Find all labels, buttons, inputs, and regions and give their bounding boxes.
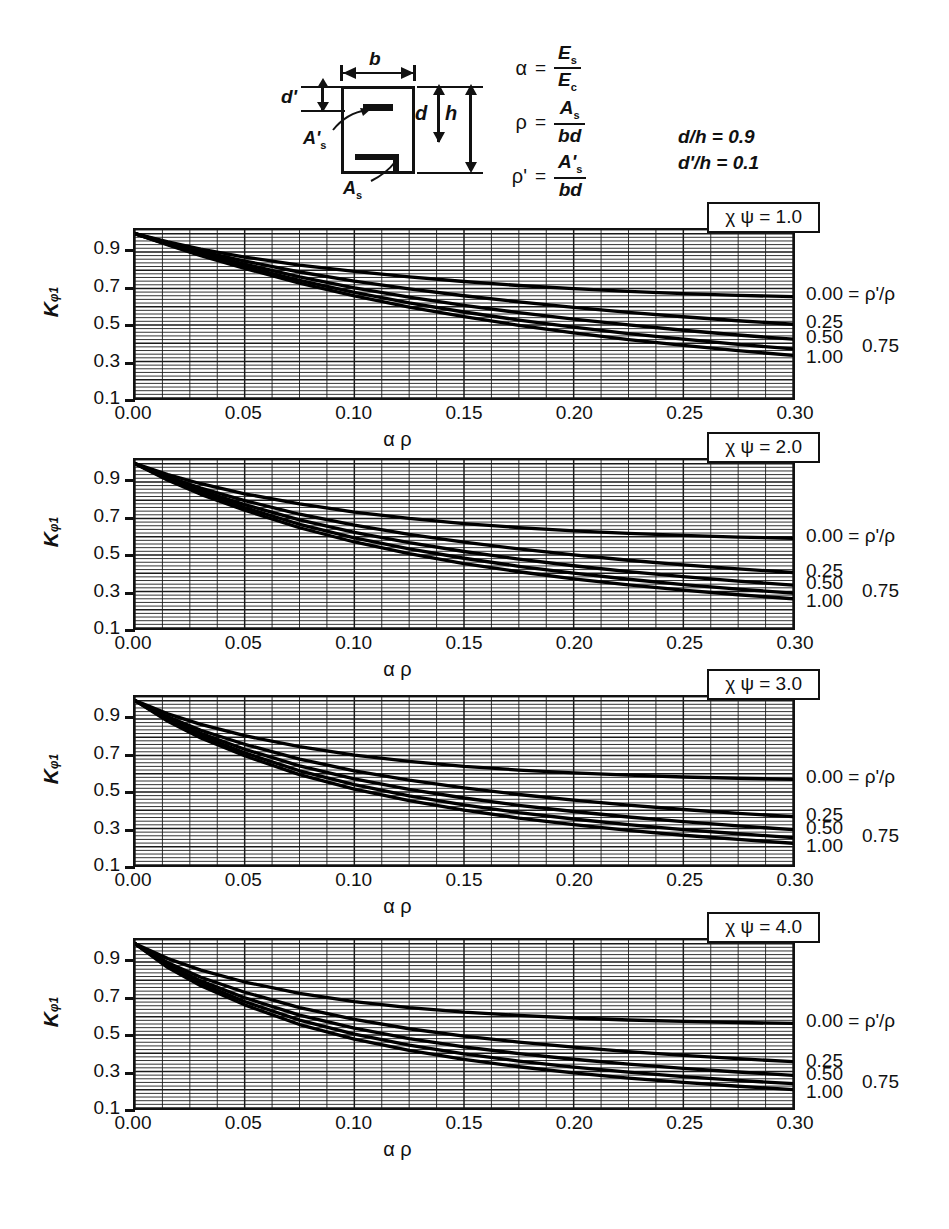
y-axis-label: Kφ1 (39, 517, 63, 547)
curve-label-0.00 = ρ'/ρ: 0.00 = ρ'/ρ (806, 1010, 895, 1032)
y-tick-0.3: 0.3 (74, 1060, 120, 1082)
curve-label-0.75: 0.75 (862, 825, 899, 847)
x-tick-0.30: 0.30 (777, 632, 814, 654)
curve-label-0.75: 0.75 (862, 1071, 899, 1093)
h-dimension-vertical (469, 90, 472, 170)
chart-title-badge: χ ψ = 1.0 (707, 202, 820, 233)
chart-title-badge: χ ψ = 3.0 (707, 669, 820, 700)
x-axis-label: α ρ (0, 658, 795, 681)
x-axis-label: α ρ (0, 428, 795, 451)
y-tick-0.3: 0.3 (74, 350, 120, 372)
grid-lines (135, 460, 793, 628)
dprime-arrow-down-icon (317, 102, 329, 112)
y-tick-0.5: 0.5 (74, 312, 120, 334)
y-tick-0.7: 0.7 (74, 505, 120, 527)
x-axis-label-rho: ρ (400, 895, 411, 918)
x-tick-0.25: 0.25 (666, 1112, 703, 1134)
formula-rho-prime-denominator: bd (554, 177, 586, 200)
x-tick-0.20: 0.20 (556, 869, 593, 891)
h-arrow-down-icon (465, 162, 477, 173)
header-definitions: b d' A's As d h (0, 28, 949, 208)
formula-alpha-denominator: Ec (554, 67, 581, 93)
formula-rho-prime-fraction: A's bd (554, 152, 586, 199)
h-arrow-up-icon (465, 84, 477, 95)
plot-area (133, 458, 795, 630)
b-arrow-right-icon (401, 67, 414, 79)
x-axis-label-alpha: α (383, 1138, 395, 1161)
curve-label-0.50: 0.50 (806, 326, 843, 348)
y-tick-0.9: 0.9 (74, 467, 120, 489)
y-axis-label: Kφ1 (39, 754, 63, 784)
formula-alpha-fraction: Es Ec (554, 43, 581, 94)
x-tick-0.05: 0.05 (225, 1112, 262, 1134)
ratio-dprime-over-h: d'/h = 0.1 (678, 150, 759, 176)
y-tick-0.5: 0.5 (74, 779, 120, 801)
x-tick-0.25: 0.25 (666, 632, 703, 654)
y-tick-0.9: 0.9 (74, 237, 120, 259)
x-tick-0.00: 0.00 (115, 632, 152, 654)
formula-rho-denominator: bd (554, 123, 585, 146)
x-tick-0.25: 0.25 (666, 402, 703, 424)
d-arrow-up-icon (433, 84, 445, 95)
cross-section-diagram: b d' A's As d h (285, 50, 515, 190)
y-tick-0.5: 0.5 (74, 542, 120, 564)
as-prime-leader-line (331, 106, 373, 132)
x-tick-0.05: 0.05 (225, 402, 262, 424)
formula-rho-equals: = (535, 111, 546, 133)
x-axis-label-rho: ρ (400, 658, 411, 681)
x-tick-0.15: 0.15 (446, 1112, 483, 1134)
dprime-arrow-up-icon (317, 78, 329, 88)
x-tick-0.20: 0.20 (556, 1112, 593, 1134)
x-axis-label: α ρ (0, 1138, 795, 1161)
x-axis-label: α ρ (0, 895, 795, 918)
x-tick-0.00: 0.00 (115, 869, 152, 891)
x-tick-0.10: 0.10 (335, 632, 372, 654)
x-tick-0.10: 0.10 (335, 1112, 372, 1134)
y-tick-0.7: 0.7 (74, 985, 120, 1007)
x-tick-labels: 0.000.050.100.150.200.250.30 (133, 869, 795, 895)
x-tick-labels: 0.000.050.100.150.200.250.30 (133, 632, 795, 658)
x-tick-0.20: 0.20 (556, 402, 593, 424)
plot-area (133, 228, 795, 400)
x-tick-0.10: 0.10 (335, 869, 372, 891)
formula-rho-numerator: As (554, 98, 585, 122)
x-axis-label-rho: ρ (400, 428, 411, 451)
label-h: h (445, 102, 457, 125)
label-d: d (415, 102, 427, 125)
y-tick-labels: 0.90.70.50.30.1 (74, 695, 120, 867)
y-tick-0.1: 0.1 (74, 1097, 120, 1119)
x-tick-0.30: 0.30 (777, 1112, 814, 1134)
curve-value-labels: 0.00 = ρ'/ρ0.250.500.751.00 (800, 695, 949, 867)
curve-label-0.00 = ρ'/ρ: 0.00 = ρ'/ρ (806, 766, 895, 788)
y-tick-0.3: 0.3 (74, 817, 120, 839)
x-tick-0.15: 0.15 (446, 632, 483, 654)
ratio-d-over-h: d/h = 0.9 (678, 124, 759, 150)
formula-rho-prime: ρ' = A's bd (505, 154, 685, 198)
as-leader-line (367, 160, 397, 184)
x-tick-labels: 0.000.050.100.150.200.250.30 (133, 402, 795, 428)
y-tick-labels: 0.90.70.50.30.1 (74, 938, 120, 1110)
chart-title-badge: χ ψ = 4.0 (707, 912, 820, 943)
x-axis-label-rho: ρ (400, 1138, 411, 1161)
x-tick-0.10: 0.10 (335, 402, 372, 424)
curve-label-1.00: 1.00 (806, 1081, 843, 1103)
x-tick-0.15: 0.15 (446, 402, 483, 424)
curve-value-labels: 0.00 = ρ'/ρ0.250.500.751.00 (800, 938, 949, 1110)
label-as: As (343, 178, 362, 201)
formula-alpha-symbol: α (505, 57, 527, 80)
y-tick-0.1: 0.1 (74, 387, 120, 409)
y-axis-label: Kφ1 (39, 287, 63, 317)
x-tick-0.00: 0.00 (115, 1112, 152, 1134)
definition-formulas: α = Es Ec ρ = As bd ρ' = A's (505, 46, 685, 208)
x-tick-0.25: 0.25 (666, 869, 703, 891)
y-tick-0.1: 0.1 (74, 617, 120, 639)
curve-label-1.00: 1.00 (806, 346, 843, 368)
label-d-prime: d' (281, 86, 297, 108)
figure-page: b d' A's As d h (0, 0, 949, 1229)
curve-label-0.75: 0.75 (862, 335, 899, 357)
formula-alpha-numerator: Es (554, 43, 581, 67)
chart-title-badge: χ ψ = 2.0 (707, 432, 820, 463)
d-arrow-down-icon (433, 132, 445, 143)
ratio-notes: d/h = 0.9 d'/h = 0.1 (678, 124, 759, 175)
b-arrow-left-icon (343, 67, 356, 79)
